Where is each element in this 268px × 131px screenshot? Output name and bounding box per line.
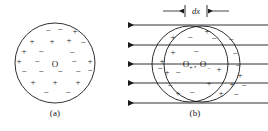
origin-labels-b: O + , O − — [183, 59, 212, 71]
origin-label-negative-subscript: − — [207, 65, 211, 71]
caption-b: (b) — [140, 108, 250, 118]
negative-charge-sign: − — [38, 66, 43, 76]
panel-a: −−++++−+−−+−−+−−−−−+++−− O — [15, 23, 95, 103]
positive-charge-sign: + — [170, 32, 175, 42]
panel-b: +−+−−+−−+−+−+−+−++−+−+− O + , O − dx — [128, 5, 268, 103]
negative-charge-sign: − — [228, 34, 233, 44]
physics-figure: −−++++−+−−+−−+−−−−−+++−− O +−+−−+−−+−+−+… — [0, 0, 268, 131]
positive-charge-sign: + — [66, 35, 71, 45]
negative-charge-sign: − — [193, 46, 198, 56]
negative-charge-sign: − — [187, 32, 192, 42]
field-lines — [128, 25, 268, 103]
positive-charge-sign: + — [75, 77, 80, 87]
positive-charge-sign: + — [52, 77, 57, 87]
negative-charge-sign: − — [235, 60, 240, 70]
positive-charge-sign: + — [216, 64, 221, 74]
positive-charge-sign: + — [206, 78, 211, 88]
positive-charge-sign: + — [175, 88, 180, 98]
origin-label-a: O — [52, 59, 59, 69]
negative-charge-sign: − — [43, 87, 48, 97]
negative-charge-sign: − — [241, 80, 246, 90]
positive-charge-sign: + — [229, 79, 234, 89]
negative-charge-sign: − — [71, 56, 76, 66]
negative-charge-sign: − — [233, 89, 238, 99]
negative-charge-sign: − — [175, 67, 180, 77]
positive-charge-sign: + — [30, 77, 35, 87]
origin-label-positive-subscript: + — [189, 65, 193, 71]
dx-label: dx — [192, 6, 200, 16]
positive-charge-sign: + — [16, 56, 21, 66]
caption-a: (a) — [0, 108, 110, 118]
negative-charge-sign: − — [75, 66, 80, 76]
negative-charge-sign: − — [167, 80, 172, 90]
positive-charge-sign: + — [170, 47, 175, 57]
negative-charge-sign: − — [211, 33, 216, 43]
positive-charge-sign: + — [49, 36, 54, 46]
dx-dimension-marker: dx — [163, 5, 229, 17]
origin-label-separator: , — [194, 59, 196, 69]
negative-charge-sign: − — [21, 66, 26, 76]
negative-charge-sign: − — [45, 25, 50, 35]
positive-charge-sign: + — [72, 26, 77, 36]
origin-label-negative: O — [200, 59, 207, 69]
negative-charge-sign: − — [34, 56, 39, 66]
positive-charge-sign: + — [164, 67, 169, 77]
negative-charge-sign: − — [232, 48, 237, 58]
negative-charge-sign: − — [57, 24, 62, 34]
negative-charge-sign: − — [87, 65, 92, 75]
negative-charge-sign: − — [189, 87, 194, 97]
negative-charge-sign: − — [80, 37, 85, 47]
positive-charge-sign: + — [21, 46, 26, 56]
negative-charge-sign: − — [38, 46, 43, 56]
positive-charge-sign: + — [237, 70, 242, 80]
negative-charge-sign: − — [157, 63, 162, 73]
positive-charge-sign: + — [29, 36, 34, 46]
positive-charge-sign: + — [218, 88, 223, 98]
negative-charge-sign: − — [65, 87, 70, 97]
positive-charge-sign: + — [204, 26, 209, 36]
